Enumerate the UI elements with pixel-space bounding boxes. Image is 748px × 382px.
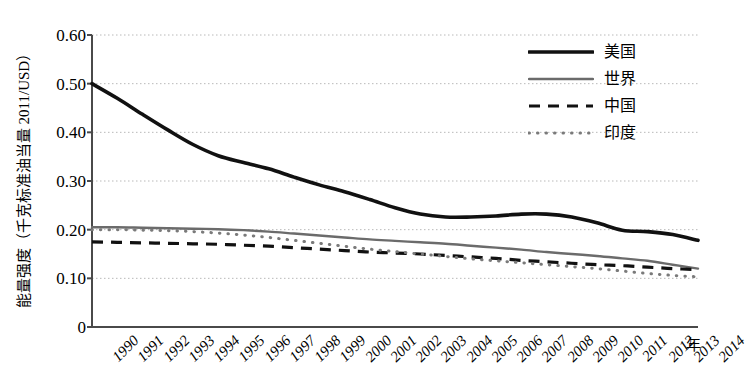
legend-label: 印度 <box>604 125 636 141</box>
x-tick-label: 2011 <box>640 333 671 364</box>
x-tick-label: 2001 <box>388 333 420 365</box>
legend-label: 中国 <box>604 98 636 114</box>
legend-swatch-印度 <box>528 126 594 140</box>
x-tick-label: 2008 <box>564 333 596 365</box>
legend-swatch-世界 <box>528 72 594 86</box>
x-tick-label: 1999 <box>337 333 369 365</box>
x-tick-label: 1997 <box>287 333 319 365</box>
x-tick-label: 1992 <box>160 333 192 365</box>
legend-item: 中国 <box>528 92 698 119</box>
x-tick-label: 1996 <box>261 333 293 365</box>
legend-item: 印度 <box>528 119 698 146</box>
x-tick-label: 1993 <box>186 333 218 365</box>
legend-swatch-美国 <box>528 45 594 59</box>
chart-legend: 美国世界中国印度 <box>528 38 698 146</box>
x-tick-label: 1991 <box>135 333 167 365</box>
legend-item: 世界 <box>528 65 698 92</box>
x-tick-label: 2005 <box>489 333 521 365</box>
x-tick-label: 2007 <box>539 333 571 365</box>
legend-label: 世界 <box>604 71 636 87</box>
x-tick-label: 2000 <box>362 333 394 365</box>
x-axis-title: 年 <box>686 338 701 353</box>
x-tick-label: 2003 <box>438 333 470 365</box>
x-tick-label: 1995 <box>236 333 268 365</box>
legend-swatch-中国 <box>528 99 594 113</box>
x-tick-label: 2004 <box>463 333 495 365</box>
legend-label: 美国 <box>604 44 636 60</box>
x-tick-label: 2009 <box>590 333 622 365</box>
x-tick-label: 2014 <box>716 333 748 365</box>
legend-item: 美国 <box>528 38 698 65</box>
